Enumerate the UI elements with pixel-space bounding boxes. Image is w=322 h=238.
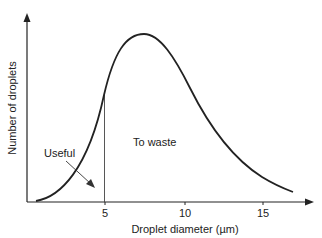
distribution-curve [36,34,293,201]
x-tick-label-15: 15 [257,207,269,219]
x-tick-label-10: 10 [179,207,191,219]
waste-label: To waste [133,136,176,148]
x-tick-label-5: 5 [102,207,108,219]
x-axis-arrow-icon [305,199,314,206]
x-axis-label: Droplet diameter (µm) [131,223,238,235]
useful-label: Useful [44,147,75,159]
y-axis-arrow-icon [24,13,31,22]
droplet-distribution-chart: 5 10 15 Droplet diameter (µm) Number of … [0,0,322,238]
useful-arrow [66,161,91,184]
y-axis-label: Number of droplets [6,61,18,155]
